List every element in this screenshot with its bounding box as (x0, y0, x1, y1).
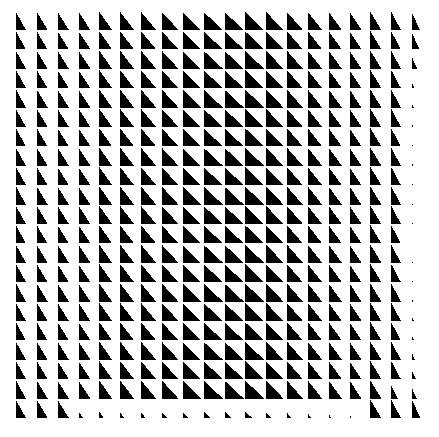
triangle-grid-svg (0, 0, 439, 437)
artwork-canvas (0, 0, 439, 437)
